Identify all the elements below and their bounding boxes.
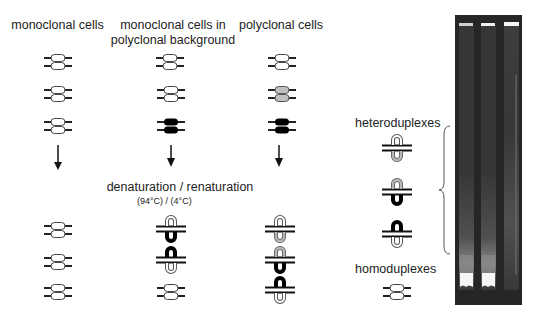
mono-top-3 <box>44 119 72 134</box>
poly-bottom-hetero-2 <box>265 248 295 272</box>
mixed-top-3 <box>157 119 185 134</box>
legend-hetero-2 <box>382 180 412 204</box>
poly-top-3 <box>268 119 296 134</box>
mixed-top-2 <box>157 87 185 102</box>
gel-image <box>455 15 522 305</box>
mono-bottom-3 <box>44 285 72 300</box>
mono-top-1 <box>44 55 72 70</box>
legend-hetero-3 <box>382 222 412 246</box>
arrow-down-icon <box>167 145 175 167</box>
mono-bottom-1 <box>44 223 72 238</box>
brace <box>439 126 450 254</box>
mixed-bottom-homo <box>157 285 185 300</box>
mono-top-2 <box>44 87 72 102</box>
mono-bottom-2 <box>44 255 72 270</box>
legend-homoduplex <box>383 285 411 300</box>
arrow-down-icon <box>54 145 62 170</box>
poly-bottom-hetero-1 <box>265 217 295 241</box>
mixed-top-1 <box>156 55 184 70</box>
poly-top-1 <box>268 55 296 70</box>
arrow-down-icon <box>275 145 283 167</box>
mixed-bottom-hetero-1 <box>156 217 186 241</box>
mixed-bottom-hetero-2 <box>156 248 186 272</box>
poly-bottom-hetero-3 <box>265 278 295 302</box>
legend-hetero-1 <box>382 136 412 160</box>
poly-top-2 <box>268 87 296 102</box>
